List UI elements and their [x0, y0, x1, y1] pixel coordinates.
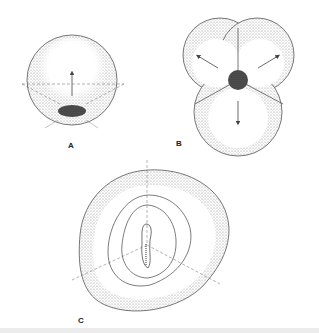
label-b: B — [176, 139, 182, 148]
label-a: A — [68, 141, 74, 150]
dark-pole — [58, 105, 86, 117]
panel-b — [183, 18, 294, 156]
panel-a — [22, 35, 124, 128]
label-c: C — [78, 316, 84, 325]
dark-center — [228, 70, 248, 90]
panel-c — [72, 160, 229, 311]
bottom-edge — [0, 328, 319, 333]
embryo-diagram: A B C — [0, 0, 319, 333]
